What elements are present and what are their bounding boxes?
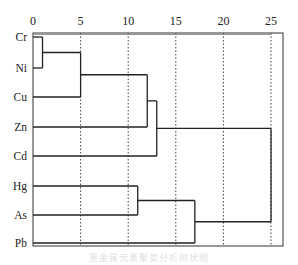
- x-tick-label: 15: [170, 14, 182, 28]
- leaf-label-cr: Cr: [16, 31, 28, 43]
- leaf-label-hg: Hg: [13, 180, 27, 193]
- x-tick-label: 5: [78, 14, 84, 28]
- x-tick-label: 20: [217, 14, 229, 28]
- leaf-labels: CrNiCuZnCdHgAsPb: [13, 31, 28, 249]
- x-axis-ticks: 0510152025: [30, 14, 277, 28]
- plot-frame: [33, 33, 283, 246]
- leaf-label-ni: Ni: [16, 62, 28, 74]
- dendrogram-links: [33, 37, 271, 243]
- x-tick-label: 0: [30, 14, 36, 28]
- leaf-label-pb: Pb: [15, 237, 27, 249]
- leaf-label-cd: Cd: [14, 150, 28, 162]
- plot-border: [33, 33, 283, 246]
- figure-caption: 重金属元素聚类分析树状图: [0, 251, 298, 264]
- dendrogram-chart: 0510152025 CrNiCuZnCdHgAsPb: [0, 0, 298, 265]
- x-tick-label: 25: [265, 14, 277, 28]
- x-tick-label: 10: [122, 14, 134, 28]
- leaf-label-cu: Cu: [14, 91, 28, 103]
- leaf-label-as: As: [14, 209, 27, 221]
- grid-lines: [81, 33, 271, 246]
- leaf-label-zn: Zn: [14, 121, 27, 133]
